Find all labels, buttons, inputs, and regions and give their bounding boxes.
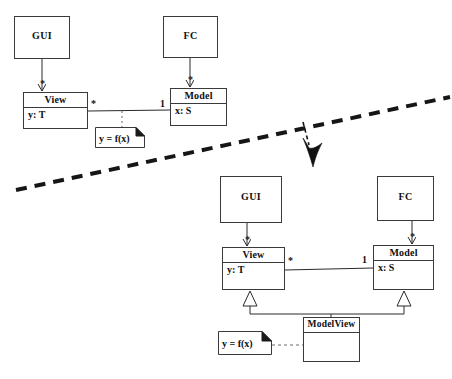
- class-name-gui-before: GUI: [15, 30, 69, 41]
- class-name-model-before: Model: [171, 89, 226, 104]
- note-text-after: y = f(x): [222, 338, 253, 349]
- edge-view-to-model-after: [285, 268, 373, 270]
- multiplicity-fc-model-before: *: [188, 75, 193, 85]
- class-name-view-before: View: [24, 93, 87, 108]
- class-box-modelview-after[interactable]: ModelView: [303, 317, 360, 362]
- class-name-fc-after: FC: [378, 191, 433, 202]
- class-attribute-view-after: y: T: [223, 263, 284, 275]
- multiplicity-model-one-before: 1: [160, 99, 165, 109]
- multiplicity-fc-model-after: *: [410, 232, 415, 242]
- class-attribute-modelview-after: [304, 333, 359, 335]
- transformation-arrow-tail: [303, 122, 309, 145]
- edge-modelview-to-model: [331, 306, 404, 314]
- class-box-gui-after[interactable]: GUI: [220, 176, 282, 223]
- class-box-fc-after[interactable]: FC: [377, 176, 434, 221]
- edge-view-to-model-before: [88, 110, 170, 111]
- note-constraint-before[interactable]: y = f(x): [95, 127, 145, 148]
- class-name-modelview-after: ModelView: [304, 318, 359, 333]
- multiplicity-view-star-after: *: [288, 256, 293, 266]
- generalization-triangle-view: [243, 291, 257, 306]
- edge-modelview-to-view: [250, 306, 331, 314]
- class-box-model-before[interactable]: Model x: S: [170, 88, 227, 126]
- class-attribute-view-before: y: T: [24, 108, 87, 120]
- multiplicity-view-star-before: *: [91, 99, 96, 109]
- multiplicity-model-one-after: 1: [362, 255, 367, 265]
- class-box-fc-before[interactable]: FC: [163, 16, 218, 58]
- class-attribute-model-before: x: S: [171, 104, 226, 116]
- generalization-triangle-model: [397, 291, 411, 306]
- class-name-fc-before: FC: [164, 30, 217, 41]
- transformation-arrow-head: [303, 138, 322, 167]
- class-name-gui-after: GUI: [221, 191, 281, 202]
- class-name-model-after: Model: [374, 246, 433, 261]
- class-box-model-after[interactable]: Model x: S: [373, 245, 434, 290]
- uml-diagram-canvas: GUI FC View y: T Model x: S y = f(x) * *…: [0, 0, 452, 379]
- multiplicity-gui-view-before: *: [40, 79, 45, 89]
- note-text-before: y = f(x): [99, 132, 130, 143]
- note-constraint-after[interactable]: y = f(x): [218, 331, 272, 355]
- class-attribute-model-after: x: S: [374, 261, 433, 273]
- multiplicity-gui-view-after: *: [245, 235, 250, 245]
- class-box-view-after[interactable]: View y: T: [222, 247, 285, 290]
- class-name-view-after: View: [223, 248, 284, 263]
- class-box-view-before[interactable]: View y: T: [23, 92, 88, 129]
- class-box-gui-before[interactable]: GUI: [14, 16, 70, 59]
